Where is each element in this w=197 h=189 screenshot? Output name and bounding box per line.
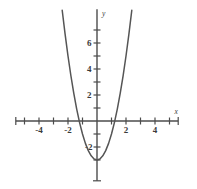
parabola-plot: -4-224246-2xy xyxy=(0,0,197,189)
x-axis-tick-label: 4 xyxy=(153,125,158,135)
y-axis-tick-label: 2 xyxy=(87,90,92,100)
x-axis-tick-label: 2 xyxy=(124,125,129,135)
y-axis-name-label: y xyxy=(101,9,106,18)
y-axis-tick-label: 4 xyxy=(87,64,92,74)
y-axis-tick-label: 6 xyxy=(87,38,92,48)
graph-figure: -4-224246-2xy xyxy=(0,0,197,189)
x-axis-name-label: x xyxy=(174,107,179,116)
x-axis-tick-label: -2 xyxy=(64,125,72,135)
x-axis-tick-label: -4 xyxy=(35,125,43,135)
